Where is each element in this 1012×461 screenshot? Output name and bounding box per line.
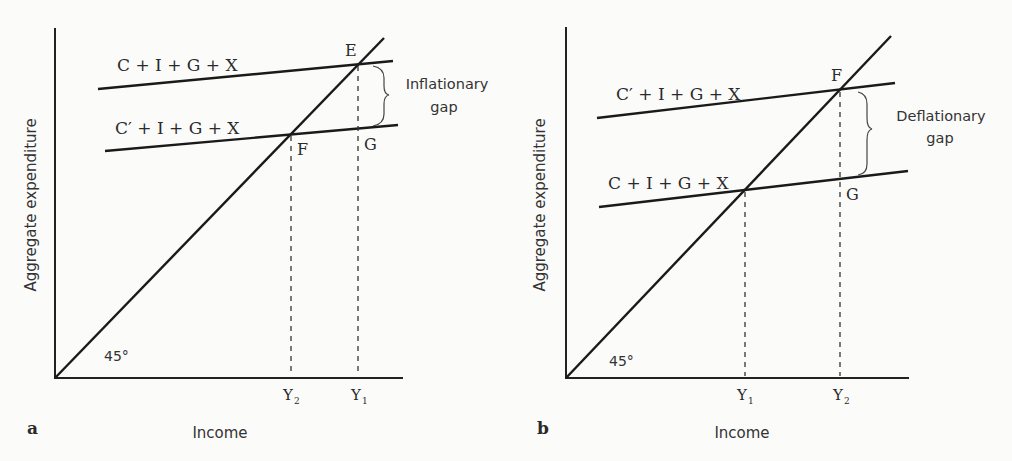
point-g-label: G bbox=[846, 185, 859, 204]
lower-line-label: C′ + I + G + X bbox=[115, 118, 240, 138]
gap-label-line1: Inflationary bbox=[406, 76, 489, 92]
x-tick-y1: Y 1 bbox=[350, 386, 368, 406]
inflationary-gap-brace bbox=[373, 66, 389, 126]
x-tick-y2: Y 2 bbox=[282, 386, 300, 406]
svg-text:1: 1 bbox=[362, 396, 368, 406]
point-g-label: G bbox=[364, 135, 377, 154]
upper-line-label: C + I + G + X bbox=[117, 55, 238, 75]
x-axis-label: Income bbox=[714, 424, 769, 442]
svg-text:2: 2 bbox=[294, 396, 300, 406]
panel-b: C′ + I + G + X C + I + G + X F G Deflati… bbox=[531, 27, 986, 442]
y-axis-label: Aggregate expenditure bbox=[22, 118, 40, 291]
gap-label-line1: Deflationary bbox=[896, 108, 986, 124]
y-axis-label: Aggregate expenditure bbox=[531, 118, 549, 291]
panel-letter: a bbox=[27, 418, 38, 438]
panel-letter: b bbox=[537, 418, 549, 438]
x-tick-y2: Y 2 bbox=[832, 386, 850, 406]
svg-text:Y: Y bbox=[832, 386, 844, 404]
panel-a: C + I + G + X C′ + I + G + X E F G Infla… bbox=[22, 28, 489, 442]
gap-label-line2: gap bbox=[430, 99, 457, 115]
svg-text:Y: Y bbox=[282, 386, 294, 404]
figure-canvas: C + I + G + X C′ + I + G + X E F G Infla… bbox=[0, 0, 1012, 461]
point-f-label: F bbox=[297, 140, 308, 159]
svg-text:1: 1 bbox=[748, 396, 754, 406]
svg-text:Y: Y bbox=[736, 386, 748, 404]
angle-label: 45° bbox=[104, 348, 129, 364]
lower-line-label: C + I + G + X bbox=[608, 173, 729, 193]
point-f-label: F bbox=[831, 66, 842, 85]
point-e-label: E bbox=[345, 41, 357, 60]
gap-label-line2: gap bbox=[926, 130, 953, 146]
upper-line-label: C′ + I + G + X bbox=[616, 84, 741, 104]
x-axis-label: Income bbox=[192, 424, 247, 442]
svg-text:Y: Y bbox=[350, 386, 362, 404]
svg-text:2: 2 bbox=[844, 396, 850, 406]
x-tick-y1: Y 1 bbox=[736, 386, 754, 406]
angle-label: 45° bbox=[609, 353, 634, 369]
deflationary-gap-brace bbox=[858, 92, 872, 175]
